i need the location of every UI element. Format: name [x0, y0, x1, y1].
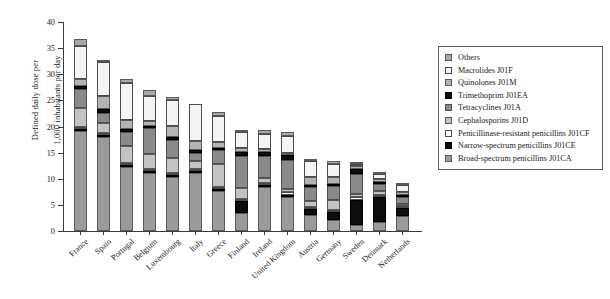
bar-segment-macro	[120, 83, 133, 120]
bar-segment-tetra	[396, 197, 409, 204]
legend-item-quin[interactable]: Quinolones J01M	[445, 78, 597, 87]
x-tick-mark	[333, 231, 334, 235]
bar-segment-broad	[281, 197, 294, 231]
legend-item-broad[interactable]: Broad-spectrum penicillins J01CA	[445, 154, 597, 163]
y-axis-line	[63, 22, 64, 231]
x-tick-mark	[310, 231, 311, 235]
y-tick-label: 35	[47, 44, 55, 53]
bar-france[interactable]	[74, 39, 87, 231]
bar-segment-broad	[189, 173, 202, 231]
bar-ireland[interactable]	[258, 130, 271, 231]
y-tick-mark	[58, 22, 63, 23]
bar-united-kingdom[interactable]	[281, 132, 294, 231]
legend-item-ceph[interactable]: Cephalosporins J01D	[445, 116, 597, 125]
legend-label: Others	[458, 53, 480, 62]
y-tick-label: 30	[47, 70, 55, 79]
y-tick-mark	[58, 48, 63, 49]
y-tick-mark	[58, 153, 63, 154]
legend-item-tetra[interactable]: Tetracyclines J01A	[445, 103, 597, 112]
y-tick-mark	[58, 127, 63, 128]
y-tick-mark	[58, 231, 63, 232]
legend-label: Penicillinase-resistant penicillins J01C…	[458, 129, 589, 138]
bar-italy[interactable]	[189, 104, 202, 231]
bar-segment-macro	[235, 132, 248, 148]
bar-segment-macro	[258, 134, 271, 149]
x-tick-mark	[149, 231, 150, 235]
legend-swatch-tetra-icon	[445, 104, 452, 111]
bar-segment-tetra	[166, 140, 179, 158]
bar-segment-quin	[97, 96, 110, 110]
legend-item-narrow[interactable]: Narrow-spectrum penicillins J01CE	[445, 141, 597, 150]
bar-segment-broad	[120, 167, 133, 231]
bar-segment-narrow	[235, 201, 248, 212]
legend-label: Narrow-spectrum penicillins J01CE	[458, 141, 576, 150]
bar-segment-broad	[235, 213, 248, 231]
bar-segment-tetra	[327, 186, 340, 200]
bar-segment-ceph	[143, 154, 156, 169]
bar-germany[interactable]	[327, 161, 340, 231]
bar-segment-ceph	[74, 108, 87, 126]
bar-luxembourg[interactable]	[166, 97, 179, 231]
legend-label: Cephalosporins J01D	[458, 116, 528, 125]
bar-segment-quin	[166, 126, 179, 137]
bar-segment-narrow	[327, 212, 340, 219]
y-tick-mark	[58, 205, 63, 206]
x-label-greece: Greece	[205, 237, 228, 259]
bar-segment-tetra	[189, 153, 202, 160]
x-tick-mark	[402, 231, 403, 235]
bar-segment-tetra	[350, 174, 363, 195]
y-tick-label: 5	[51, 200, 55, 209]
bar-belgium[interactable]	[143, 90, 156, 231]
legend-swatch-narrow-icon	[445, 142, 452, 149]
legend-swatch-quin-icon	[445, 79, 452, 86]
bar-portugal[interactable]	[120, 79, 133, 231]
legend-item-others[interactable]: Others	[445, 53, 597, 62]
bar-segment-macro	[143, 96, 156, 121]
bar-segment-macro	[281, 136, 294, 153]
legend-label: Quinolones J01M	[458, 78, 516, 87]
y-tick-label: 0	[51, 227, 55, 236]
legend-item-pen[interactable]: Penicillinase-resistant penicillins J01C…	[445, 129, 597, 138]
bar-segment-tetra	[120, 132, 133, 146]
bar-finland[interactable]	[235, 130, 248, 231]
legend: OthersMacrolides J01FQuinolones J01MTrim…	[438, 46, 603, 170]
bar-segment-macro	[212, 116, 225, 142]
bar-spain[interactable]	[97, 60, 110, 231]
bar-segment-ceph	[97, 123, 110, 133]
bar-segment-broad	[258, 187, 271, 231]
x-label-portugal: Portugal	[110, 237, 137, 262]
bar-segment-narrow	[373, 197, 386, 222]
legend-item-macro[interactable]: Macrolides J01F	[445, 66, 597, 75]
bar-segment-broad	[143, 173, 156, 231]
x-label-france: France	[68, 237, 91, 259]
bar-segment-broad	[327, 220, 340, 231]
bar-denmark[interactable]	[373, 172, 386, 231]
bar-austria[interactable]	[304, 159, 317, 231]
x-tick-mark	[356, 231, 357, 235]
bar-segment-ceph	[166, 158, 179, 173]
bar-segment-broad	[97, 137, 110, 231]
bar-segment-broad	[396, 216, 409, 231]
bar-segment-tetra	[258, 156, 271, 178]
legend-swatch-pen-icon	[445, 130, 452, 137]
y-tick-label: 20	[47, 122, 55, 131]
bar-segment-macro	[97, 62, 110, 96]
legend-item-trim[interactable]: Trimethoprim J01EA	[445, 91, 597, 100]
bar-segment-tetra	[97, 113, 110, 123]
bar-segment-macro	[189, 104, 202, 141]
y-tick-mark	[58, 179, 63, 180]
x-tick-mark	[218, 231, 219, 235]
bar-segment-broad	[373, 222, 386, 231]
bar-segment-ceph	[120, 146, 133, 163]
y-axis-title: Defined daily dose per 1,000 inhabitants…	[19, 15, 63, 185]
bar-segment-broad	[166, 177, 179, 231]
bar-netherlands[interactable]	[396, 183, 409, 231]
legend-label: Tetracyclines J01A	[458, 103, 521, 112]
legend-swatch-broad-icon	[445, 155, 452, 162]
legend-swatch-ceph-icon	[445, 117, 452, 124]
bar-segment-broad	[212, 191, 225, 231]
bar-segment-narrow	[350, 200, 363, 225]
bar-greece[interactable]	[212, 112, 225, 231]
bar-sweden[interactable]	[350, 162, 363, 231]
bar-segment-quin	[120, 120, 133, 129]
